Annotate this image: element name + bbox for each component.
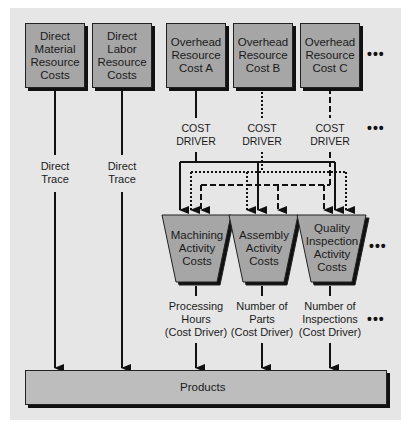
resource-overhead-a: Overhead Resource Cost A — [166, 23, 226, 88]
more-resources-ellipsis: ••• — [367, 46, 385, 62]
cost-driver-label-a: COST DRIVER — [176, 122, 216, 148]
more-drivers-ellipsis-bottom: ••• — [367, 311, 385, 327]
resource-direct-labor: Direct Labor Resource Costs — [92, 23, 152, 88]
activity-machining: Machining Activity Costs — [160, 229, 234, 268]
direct-trace-label-material: Direct Trace — [41, 160, 70, 186]
cost-driver-label-c: COST DRIVER — [310, 122, 350, 148]
driver-number-of-parts: Number of Parts (Cost Driver) — [231, 300, 293, 339]
products-label: Products — [180, 381, 225, 394]
activity-quality-inspection: Quality Inspection Activity Costs — [295, 222, 369, 274]
resource-overhead-b: Overhead Resource Cost B — [233, 23, 293, 88]
resource-direct-material: Direct Material Resource Costs — [25, 23, 85, 88]
driver-number-of-inspections: Number of Inspections (Cost Driver) — [299, 300, 361, 339]
cost-driver-label-b: COST DRIVER — [242, 122, 282, 148]
activity-assembly: Assembly Activity Costs — [227, 229, 301, 268]
direct-trace-label-labor: Direct Trace — [108, 160, 137, 186]
more-activities-ellipsis: ••• — [369, 238, 387, 254]
resource-overhead-c: Overhead Resource Cost C — [300, 23, 360, 88]
more-drivers-ellipsis: ••• — [367, 120, 385, 136]
driver-processing-hours: Processing Hours (Cost Driver) — [165, 300, 227, 339]
